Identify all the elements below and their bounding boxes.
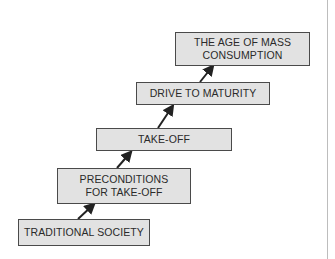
arrow-icon (78, 205, 93, 219)
stage-take-off: TAKE-OFF (96, 128, 232, 151)
stage-mass-consumption: THE AGE OF MASS CONSUMPTION (175, 32, 310, 66)
arrow-icon (200, 67, 212, 82)
stage-label: TAKE-OFF (138, 133, 190, 146)
stage-label-line1: THE AGE OF MASS (194, 36, 291, 49)
arrow-icon (117, 153, 130, 168)
stage-drive-to-maturity: DRIVE TO MATURITY (136, 82, 270, 105)
stage-label: DRIVE TO MATURITY (150, 87, 257, 100)
stage-label-line1: PRECONDITIONS (80, 173, 169, 186)
stage-label-line2: FOR TAKE-OFF (85, 186, 162, 199)
arrow-icon (158, 107, 172, 128)
stage-traditional-society: TRADITIONAL SOCIETY (18, 219, 150, 246)
stage-label-line2: CONSUMPTION (203, 49, 283, 62)
stage-preconditions: PRECONDITIONS FOR TAKE-OFF (57, 168, 191, 204)
stage-label: TRADITIONAL SOCIETY (24, 226, 144, 239)
